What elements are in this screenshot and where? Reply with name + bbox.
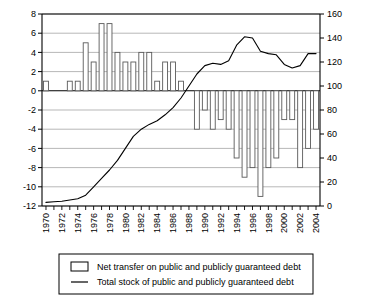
bar xyxy=(290,91,295,120)
bar xyxy=(202,91,207,110)
bar xyxy=(107,24,112,91)
bar xyxy=(226,91,231,129)
bar xyxy=(314,91,319,129)
y-tick-label-left: -10 xyxy=(23,182,36,192)
x-tick-label: 1994 xyxy=(232,213,242,233)
x-tick-label: 1978 xyxy=(105,213,115,233)
bar xyxy=(115,52,120,90)
x-tick-label: 1976 xyxy=(89,213,99,233)
dual-axis-bar-line-chart: 86420-2-4-6-8-10-12 16014012010080604020… xyxy=(0,0,372,307)
x-tick-label: 1990 xyxy=(200,213,210,233)
bar xyxy=(242,91,247,177)
bar xyxy=(298,91,303,168)
bar xyxy=(179,81,184,91)
y-tick-label-right: 160 xyxy=(327,9,342,19)
bar xyxy=(163,62,168,91)
y-tick-label-left: 6 xyxy=(31,28,36,38)
x-tick-label: 1988 xyxy=(184,213,194,233)
x-tick-label: 1982 xyxy=(136,213,146,233)
x-tick-label: 1970 xyxy=(41,213,51,233)
y-tick-label-right: 80 xyxy=(327,105,337,115)
x-tick-label: 1998 xyxy=(264,213,274,233)
bar xyxy=(123,62,128,91)
x-axis-labels: 1970197219741976197819801982198419861988… xyxy=(41,206,321,233)
bar xyxy=(155,81,160,91)
bar xyxy=(250,91,255,168)
bar xyxy=(266,91,271,168)
y-axis-left-labels: 86420-2-4-6-8-10-12 xyxy=(23,9,42,211)
y-tick-label-left: -6 xyxy=(28,144,36,154)
y-tick-label-right: 120 xyxy=(327,57,342,67)
y-axis-right-labels: 160140120100806040200 xyxy=(320,9,342,211)
y-tick-label-left: -12 xyxy=(23,201,36,211)
bar xyxy=(306,91,311,149)
bar xyxy=(75,81,80,91)
bar xyxy=(171,62,176,91)
y-tick-label-right: 60 xyxy=(327,129,337,139)
bar xyxy=(44,81,49,91)
bar xyxy=(258,91,263,197)
y-tick-label-left: -8 xyxy=(28,163,36,173)
y-tick-label-right: 140 xyxy=(327,33,342,43)
bar xyxy=(67,81,72,91)
x-tick-label: 1996 xyxy=(248,213,258,233)
x-tick-label: 1984 xyxy=(152,213,162,233)
bar xyxy=(274,91,279,158)
x-tick-label: 2000 xyxy=(279,213,289,233)
bar xyxy=(139,52,144,90)
x-tick-label: 1974 xyxy=(73,213,83,233)
bar xyxy=(83,43,88,91)
y-tick-label-left: 4 xyxy=(31,48,36,58)
y-tick-label-right: 100 xyxy=(327,81,342,91)
bar xyxy=(218,91,223,120)
x-tick-label: 1972 xyxy=(57,213,67,233)
bar xyxy=(194,91,199,129)
y-tick-label-left: 0 xyxy=(31,86,36,96)
y-tick-label-right: 20 xyxy=(327,177,337,187)
bar xyxy=(91,62,96,91)
y-tick-label-left: 2 xyxy=(31,67,36,77)
bar xyxy=(210,91,215,129)
bar xyxy=(99,24,104,91)
x-tick-label: 1980 xyxy=(121,213,131,233)
x-tick-label: 1992 xyxy=(216,213,226,233)
y-tick-label-right: 40 xyxy=(327,153,337,163)
x-tick-label: 1986 xyxy=(168,213,178,233)
bar xyxy=(282,91,287,120)
y-tick-label-right: 0 xyxy=(327,201,332,211)
chart-figure: 86420-2-4-6-8-10-12 16014012010080604020… xyxy=(0,0,372,307)
chart-canvas: 86420-2-4-6-8-10-12 16014012010080604020… xyxy=(0,0,372,307)
y-tick-label-left: -4 xyxy=(28,124,36,134)
x-tick-label: 2004 xyxy=(311,213,321,233)
y-tick-label-left: 8 xyxy=(31,9,36,19)
y-tick-label-left: -2 xyxy=(28,105,36,115)
bar xyxy=(234,91,239,158)
x-tick-label: 2002 xyxy=(295,213,305,233)
bar xyxy=(131,62,136,91)
bar xyxy=(147,52,152,90)
